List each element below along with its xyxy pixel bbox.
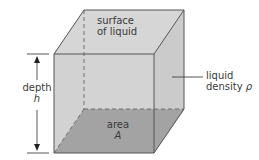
density-label: liquid density ρ: [206, 70, 252, 92]
surface-label-line2: of liquid: [97, 26, 137, 37]
density-label-line1: liquid: [206, 70, 252, 81]
density-label-symbol: ρ: [246, 81, 252, 92]
depth-label: depth h: [20, 82, 54, 104]
area-label-symbol: A: [100, 130, 136, 141]
surface-label-line1: surface: [97, 15, 137, 26]
arrowhead-up-icon: [34, 56, 40, 63]
density-label-line2: density ρ: [206, 81, 252, 92]
surface-label: surface of liquid: [97, 15, 137, 37]
depth-label-word: depth: [20, 82, 54, 93]
arrowhead-down-icon: [34, 144, 40, 151]
area-label-word: area: [100, 119, 136, 130]
depth-label-symbol: h: [20, 93, 54, 104]
area-label: area A: [100, 119, 136, 141]
density-label-word: density: [206, 81, 243, 92]
